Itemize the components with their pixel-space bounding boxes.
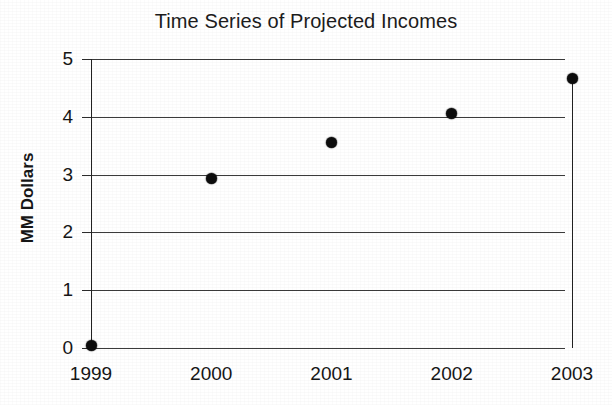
data-point-1999 <box>86 340 97 351</box>
data-point-2001 <box>326 137 337 148</box>
gridline-y-1 <box>91 290 565 291</box>
x-tick-label-2000: 2000 <box>166 364 256 383</box>
y-axis-line <box>91 59 92 348</box>
data-point-2000 <box>206 173 217 184</box>
x-tick-label-2003: 2003 <box>527 364 612 383</box>
y-tick-label-5: 5 <box>49 49 73 68</box>
chart-figure: Time Series of Projected Incomes MM Doll… <box>0 0 612 405</box>
drop-line-2003 <box>572 78 573 348</box>
y-tick-label-1: 1 <box>49 280 73 299</box>
y-tick-label-3: 3 <box>49 165 73 184</box>
x-tick-label-2002: 2002 <box>407 364 497 383</box>
plot-area: 01234519992000200120022003 <box>0 0 612 405</box>
gridline-y-0 <box>91 348 565 349</box>
gridline-y-2 <box>91 232 565 233</box>
y-tick-label-4: 4 <box>49 107 73 126</box>
x-tick-label-2001: 2001 <box>287 364 377 383</box>
x-tick-label-1999: 1999 <box>46 364 136 383</box>
gridline-y-4 <box>91 117 565 118</box>
data-point-2003 <box>567 73 578 84</box>
gridline-y-5 <box>91 59 565 60</box>
gridline-y-3 <box>91 175 565 176</box>
y-tick-label-0: 0 <box>49 338 73 357</box>
y-tick-label-2: 2 <box>49 222 73 241</box>
